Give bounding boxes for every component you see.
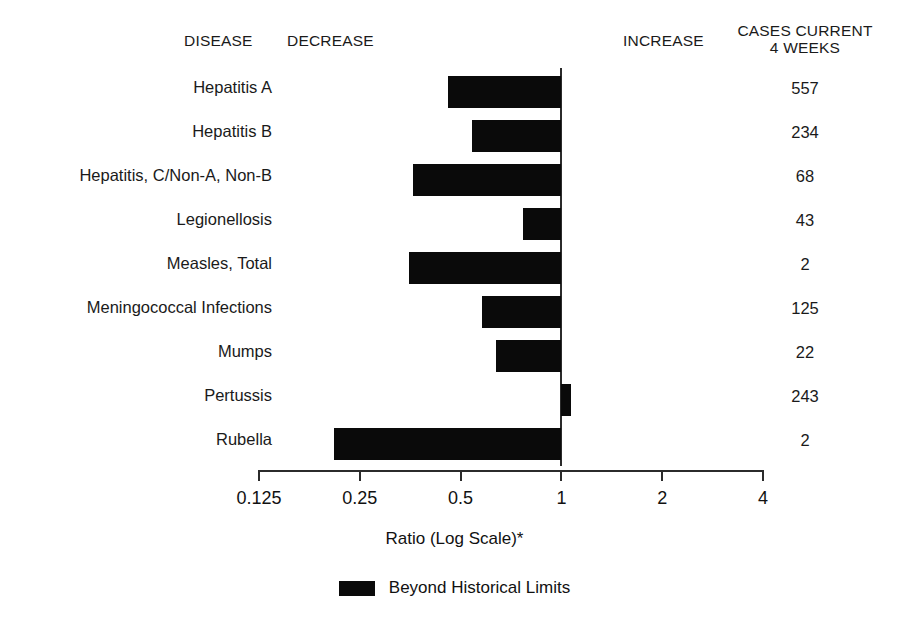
bar-pertussis — [561, 384, 571, 416]
row-label-disease: Legionellosis — [177, 210, 272, 229]
x-axis-tick-label: 1 — [556, 488, 566, 509]
chart-row: Mumps22 — [0, 334, 909, 378]
chart-row: Measles, Total2 — [0, 246, 909, 290]
x-axis-tick — [460, 470, 462, 481]
chart-row: Meningococcal Infections125 — [0, 290, 909, 334]
x-axis-tick-label: 0.25 — [342, 488, 377, 509]
legend-label: Beyond Historical Limits — [389, 578, 570, 598]
row-label-disease: Hepatitis B — [192, 122, 272, 141]
chart-row: Legionellosis43 — [0, 202, 909, 246]
row-cases-current-4-weeks: 68 — [730, 167, 880, 186]
row-cases-current-4-weeks: 125 — [730, 299, 880, 318]
header-disease: DISEASE — [184, 32, 253, 50]
chart-row: Rubella2 — [0, 422, 909, 466]
bar-hepatitis-b — [472, 120, 562, 152]
x-axis-tick-label: 0.125 — [236, 488, 281, 509]
chart-row: Hepatitis, C/Non-A, Non-B68 — [0, 158, 909, 202]
chart-row: Pertussis243 — [0, 378, 909, 422]
legend: Beyond Historical Limits — [0, 578, 909, 598]
x-axis-tick — [762, 470, 764, 481]
row-label-disease: Measles, Total — [167, 254, 272, 273]
bar-hepatitis-c-non-a-non-b — [413, 164, 562, 196]
bar-mumps — [496, 340, 561, 372]
x-axis-tick — [661, 470, 663, 481]
row-label-disease: Pertussis — [204, 386, 272, 405]
x-axis — [0, 470, 909, 484]
scan-artifact-text — [0, 612, 909, 625]
row-cases-current-4-weeks: 243 — [730, 387, 880, 406]
chart-row: Hepatitis A557 — [0, 70, 909, 114]
disease-ratio-chart: DISEASE DECREASE INCREASE CASES CURRENT … — [0, 0, 909, 625]
chart-row: Hepatitis B234 — [0, 114, 909, 158]
bar-hepatitis-a — [448, 76, 561, 108]
bar-rubella — [334, 428, 561, 460]
bar-measles-total — [409, 252, 562, 284]
x-axis-tick-label: 2 — [657, 488, 667, 509]
row-label-disease: Rubella — [216, 430, 272, 449]
row-label-disease: Meningococcal Infections — [87, 298, 272, 317]
x-axis-tick — [258, 470, 260, 481]
row-label-disease: Hepatitis, C/Non-A, Non-B — [79, 166, 272, 185]
header-cases-line2: 4 WEEKS — [730, 39, 880, 56]
x-axis-line — [259, 470, 763, 472]
row-cases-current-4-weeks: 43 — [730, 211, 880, 230]
legend-swatch-beyond-historical-limits — [339, 581, 375, 596]
row-label-disease: Hepatitis A — [193, 78, 272, 97]
x-axis-title: Ratio (Log Scale)* — [0, 529, 909, 549]
row-cases-current-4-weeks: 22 — [730, 343, 880, 362]
header-increase: INCREASE — [623, 32, 704, 50]
x-axis-tick — [359, 470, 361, 481]
header-cases-line1: CASES CURRENT — [737, 22, 872, 39]
header-cases-current-4-weeks: CASES CURRENT 4 WEEKS — [730, 22, 880, 56]
x-axis-tick-label: 0.5 — [448, 488, 473, 509]
row-label-disease: Mumps — [218, 342, 272, 361]
header-decrease: DECREASE — [287, 32, 374, 50]
row-cases-current-4-weeks: 2 — [730, 255, 880, 274]
bar-meningococcal-infections — [482, 296, 561, 328]
x-axis-tick — [560, 470, 562, 481]
row-cases-current-4-weeks: 557 — [730, 79, 880, 98]
row-cases-current-4-weeks: 234 — [730, 123, 880, 142]
bar-legionellosis — [523, 208, 561, 240]
row-cases-current-4-weeks: 2 — [730, 431, 880, 450]
plot-area: Hepatitis A557Hepatitis B234Hepatitis, C… — [0, 68, 909, 466]
x-axis-tick-label: 4 — [758, 488, 768, 509]
